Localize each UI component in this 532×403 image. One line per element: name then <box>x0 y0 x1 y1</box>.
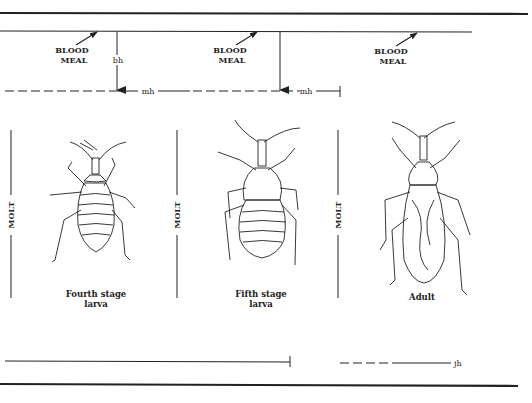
fifth-stage-larva-illustration <box>218 120 300 265</box>
svg-text:MOLT: MOLT <box>6 202 16 229</box>
mh-label-2: mh <box>300 87 313 96</box>
blood-meal-label-1b: MEAL <box>61 55 88 65</box>
bh-label: bh <box>113 56 123 65</box>
mh-label-1: mh <box>142 87 155 96</box>
blood-meal-arrow-1 <box>76 32 97 45</box>
bottom-border <box>0 384 518 386</box>
insect-development-diagram: BLOOD MEAL BLOOD MEAL BLOOD MEAL bh mh m… <box>0 0 532 403</box>
svg-text:MOLT: MOLT <box>333 202 343 229</box>
top-border <box>0 13 528 14</box>
blood-meal-label-1: BLOOD <box>55 45 88 55</box>
svg-text:MOLT: MOLT <box>172 202 182 229</box>
stage-caption-3: Adult <box>408 292 435 302</box>
molt-marker-2: MOLT <box>172 130 182 298</box>
stage-caption-1: Fourth stage <box>66 289 127 299</box>
adult-illustration <box>380 122 470 295</box>
molt-marker-1: MOLT <box>6 130 16 298</box>
stage-caption-2b: larva <box>249 299 273 309</box>
jh-label: jh <box>453 359 462 368</box>
stage-caption-2: Fifth stage <box>235 289 287 299</box>
blood-meal-label-2: BLOOD <box>213 45 246 55</box>
timeline <box>0 31 472 32</box>
fourth-stage-larva-illustration <box>50 140 135 262</box>
molt-marker-3: MOLT <box>333 130 343 298</box>
blood-meal-label-3b: MEAL <box>380 56 407 66</box>
blood-meal-arrow-3 <box>396 33 417 46</box>
blood-meal-label-3: BLOOD <box>374 46 407 56</box>
larval-period-line <box>5 361 290 362</box>
stage-caption-1b: larva <box>84 299 108 309</box>
blood-meal-label-2b: MEAL <box>219 55 246 65</box>
blood-meal-arrow-2 <box>236 32 257 45</box>
